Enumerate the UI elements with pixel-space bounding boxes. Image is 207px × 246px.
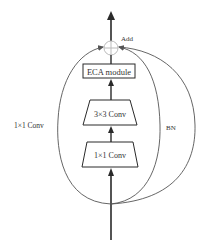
add-label: Add <box>121 35 134 43</box>
residual-block-diagram: Add ECA module 3×3 Conv 1×1 Conv <box>0 0 207 246</box>
right-branch-label: BN <box>166 124 176 132</box>
conv3x3-label: 3×3 Conv <box>94 110 126 119</box>
conv1-to-conv3-arrow <box>108 126 114 142</box>
conv1x1-label: 1×1 Conv <box>94 151 126 160</box>
left-branch-label: 1×1 Conv <box>14 121 44 130</box>
eca-module-label: ECA module <box>87 67 131 77</box>
output-arrow <box>107 11 115 41</box>
add-node <box>104 41 118 55</box>
conv3-to-eca-arrow <box>108 79 114 100</box>
